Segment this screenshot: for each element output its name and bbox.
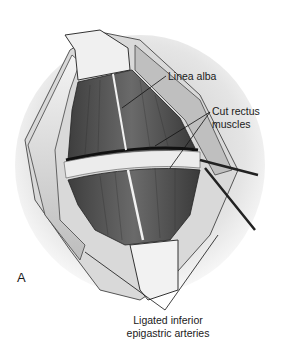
label-ligated-line2: epigastric arteries	[113, 327, 223, 339]
label-linea-alba: Linea alba	[168, 70, 216, 82]
panel-letter: A	[17, 270, 26, 285]
label-cut-rectus-line2: muscles	[212, 118, 251, 130]
surgical-illustration	[0, 0, 286, 353]
label-ligated-line1: Ligated inferior	[118, 314, 218, 326]
label-cut-rectus-line1: Cut rectus	[212, 105, 260, 117]
